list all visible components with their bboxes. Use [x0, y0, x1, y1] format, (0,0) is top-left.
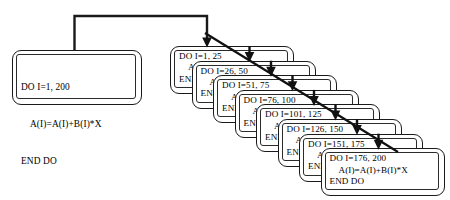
fork-bracket-path	[75, 16, 208, 50]
source-loop-header: DO I=1, 200	[21, 81, 135, 93]
chunk-drop-arrows	[245, 46, 384, 150]
diagonal-distribute-line	[205, 33, 398, 152]
loop-partition-diagram: DO I=1, 25A(I)=A(I)+B(I)*XEND DODO I=26,…	[0, 0, 450, 200]
chunk-drop-arrowhead-7	[352, 125, 362, 135]
source-loop-code: DO I=1, 200 A(I)=A(I)+B(I)*X END DO	[21, 56, 135, 192]
source-loop-end: END DO	[21, 155, 135, 167]
source-loop-box: DO I=1, 200 A(I)=A(I)+B(I)*X END DO	[12, 50, 140, 103]
chunk-drop-arrowhead-8	[374, 140, 384, 150]
source-loop-body: A(I)=A(I)+B(I)*X	[21, 118, 135, 130]
chunk-drop-arrowhead-5	[309, 96, 319, 106]
fork-arrowhead	[202, 38, 212, 48]
